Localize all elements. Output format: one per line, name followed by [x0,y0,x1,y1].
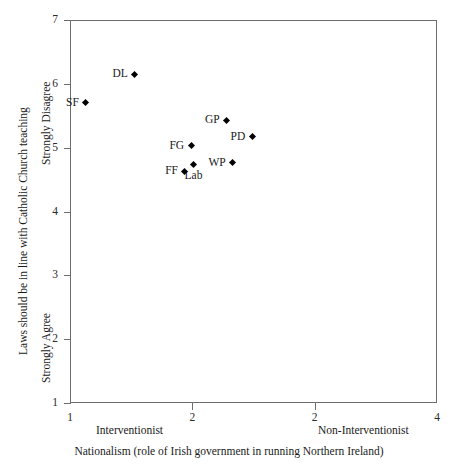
y-tick-mark [64,20,71,21]
y-tick-mark [64,212,71,213]
data-point-label: WP [208,157,225,168]
y-axis-low-anchor-label: Strongly Agree [40,313,52,383]
y-tick-label: 1 [32,397,58,408]
y-tick-label: 4 [32,206,58,217]
y-tick-label: 3 [32,269,58,280]
y-tick-mark [64,275,71,276]
y-axis-high-anchor-label: Strongly Disagree [40,82,52,165]
x-axis-high-anchor-label: Non-Interventionist [318,424,409,436]
x-tick-label: 4 [425,411,449,423]
data-point-label: PD [231,131,246,142]
data-point-label: GP [205,114,220,125]
y-tick-mark [64,148,71,149]
y-tick-mark [64,339,71,340]
y-tick-label: 7 [32,14,58,25]
data-point-label: SF [66,97,79,108]
data-point-label: FF [165,165,178,176]
x-axis-title: Nationalism (role of Irish government in… [0,445,458,457]
x-tick-mark [315,403,316,410]
x-tick-mark [192,403,193,410]
y-axis-title: Laws should be in line with Catholic Chu… [17,107,29,355]
y-tick-mark [64,403,71,404]
x-tick-label: 2 [180,411,204,423]
x-axis-low-anchor-label: Interventionist [96,424,163,436]
x-tick-label: 2 [303,411,327,423]
data-point-label: FG [169,140,184,151]
y-tick-mark [64,84,71,85]
x-tick-label: 1 [58,411,82,423]
data-point-label: DL [112,68,127,79]
scatter-plot-figure: 7654321 1224 Laws should be in line with… [0,0,458,465]
